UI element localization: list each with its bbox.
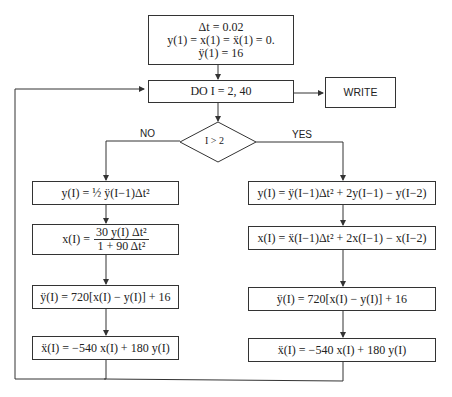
no-step-xddot-box: ẍ(I) = −540 x(I) + 180 y(I) — [32, 336, 179, 360]
no-step-x-numerator: 30 y(I) Δt² — [94, 226, 149, 240]
yes-step-xddot: ẍ(I) = −540 x(I) + 180 y(I) — [278, 344, 406, 357]
arrow-yes-branch — [256, 142, 343, 180]
yes-step-yddot-box: ÿ(I) = 720[x(I) − y(I)] + 16 — [248, 287, 436, 311]
do-loop-label: DO I = 2, 40 — [190, 85, 251, 98]
yes-label: YES — [292, 129, 312, 140]
yes-step-x-box: x(I) = ẍ(I−1)Δt² + 2x(I−1) − x(I−2) — [248, 226, 436, 250]
yes-step-yddot: ÿ(I) = 720[x(I) − y(I)] + 16 — [277, 293, 407, 306]
init-yddot: ÿ(1) = 16 — [199, 47, 244, 60]
no-step-yddot-box: ÿ(I) = 720[x(I) − y(I)] + 16 — [32, 285, 179, 309]
return-line-yes — [104, 361, 343, 381]
init-conditions: y(1) = x(1) = ẍ(1) = 0. — [167, 34, 274, 47]
yes-step-xddot-box: ẍ(I) = −540 x(I) + 180 y(I) — [248, 338, 436, 362]
no-label: NO — [140, 128, 155, 139]
no-step-y: y(I) = ½ ÿ(I−1)Δt² — [61, 187, 149, 200]
do-loop-box: DO I = 2, 40 — [148, 80, 294, 103]
arrow-no-branch — [106, 141, 180, 180]
no-step-x-box: x(I) = 30 y(I) Δt² 1 + 90 Δt² — [32, 224, 179, 255]
write-box: WRITE — [325, 77, 396, 108]
yes-step-y: y(I) = ÿ(I−1)Δt² + 2y(I−1) − y(I−2) — [257, 187, 426, 200]
init-delta-t: Δt = 0.02 — [199, 21, 244, 34]
no-step-yddot: ÿ(I) = 720[x(I) − y(I)] + 16 — [40, 291, 170, 304]
write-label: WRITE — [344, 86, 378, 99]
yes-step-y-box: y(I) = ÿ(I−1)Δt² + 2y(I−1) − y(I−2) — [248, 181, 436, 205]
no-step-y-box: y(I) = ½ ÿ(I−1)Δt² — [32, 181, 179, 205]
no-step-x-lhs: x(I) = — [62, 233, 90, 246]
no-step-x-fraction: 30 y(I) Δt² 1 + 90 Δt² — [94, 226, 149, 253]
no-step-x-denominator: 1 + 90 Δt² — [96, 240, 148, 253]
no-step-xddot: ẍ(I) = −540 x(I) + 180 y(I) — [41, 342, 169, 355]
yes-step-x: x(I) = ẍ(I−1)Δt² + 2x(I−1) − x(I−2) — [257, 232, 426, 245]
initialization-box: Δt = 0.02 y(1) = x(1) = ẍ(1) = 0. ÿ(1) =… — [148, 15, 294, 65]
decision-label: I > 2 — [205, 135, 224, 146]
